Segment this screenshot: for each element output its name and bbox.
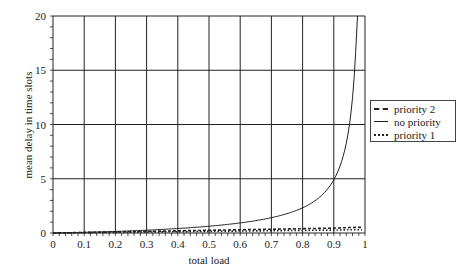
- y-tick-labels: 05101520: [35, 10, 47, 239]
- y-tick-label: 0: [41, 227, 47, 239]
- legend: priority 2 no priority priority 1: [370, 100, 456, 142]
- solid-line-icon: [374, 121, 388, 122]
- x-tick-label: 0.4: [171, 238, 185, 250]
- x-tick-label: 0.1: [77, 238, 91, 250]
- y-tick-label: 15: [35, 64, 47, 76]
- x-tick-label: 0.9: [327, 238, 341, 250]
- x-tick-label: 0.7: [265, 238, 279, 250]
- legend-label: priority 1: [394, 129, 435, 141]
- dashed-line-icon: [374, 108, 388, 110]
- y-tick-label: 10: [35, 119, 47, 131]
- legend-label: no priority: [394, 116, 441, 128]
- y-tick-label: 5: [41, 173, 47, 185]
- x-tick-label: 1: [362, 238, 368, 250]
- legend-item-priority-2: priority 2: [374, 102, 452, 115]
- x-tick-label: 0.2: [109, 238, 123, 250]
- x-axis-title: total load: [188, 254, 230, 266]
- x-tick-label: 0.5: [202, 238, 216, 250]
- x-tick-label: 0: [50, 238, 56, 250]
- minor-ticks: [50, 16, 365, 236]
- legend-item-priority-1: priority 1: [374, 128, 452, 141]
- x-tick-label: 0.3: [140, 238, 154, 250]
- x-tick-label: 0.8: [296, 238, 310, 250]
- legend-item-no-priority: no priority: [374, 115, 452, 128]
- dotted-line-icon: [374, 134, 388, 136]
- legend-label: priority 2: [394, 103, 435, 115]
- grid: [53, 16, 365, 233]
- y-tick-label: 20: [35, 10, 47, 22]
- x-tick-labels: 00.10.20.30.40.50.60.70.80.91: [50, 238, 368, 250]
- x-tick-label: 0.6: [233, 238, 247, 250]
- y-axis-title: mean delay in time slots: [22, 72, 34, 179]
